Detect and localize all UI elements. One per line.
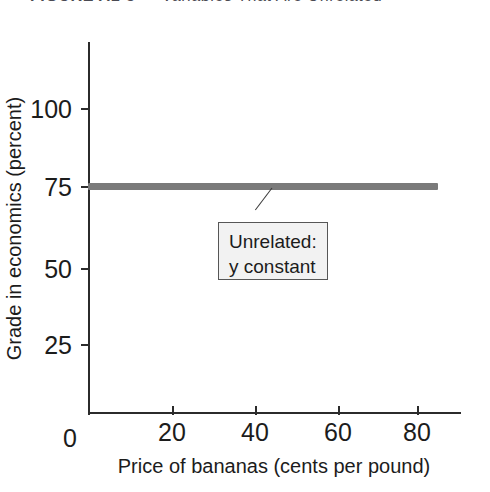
x-tick-label-20: 20 [158, 418, 186, 447]
y-tick-50: 50 [81, 268, 90, 270]
annotation-callout: Unrelated: y constant [218, 222, 328, 280]
y-tick-25: 25 [81, 344, 90, 346]
figure-caption-title: Variables That Are Unrelated [162, 0, 383, 4]
x-tick-40: 40 [255, 406, 257, 415]
x-axis-line [88, 412, 461, 414]
y-tick-label-100: 100 [30, 95, 72, 124]
y-tick-label-50: 50 [44, 255, 72, 284]
x-tick-20: 20 [172, 406, 174, 415]
x-tick-label-0: 0 [63, 424, 77, 453]
y-tick-label-25: 25 [44, 331, 72, 360]
y-axis-title: Grade in economics (percent) [0, 42, 28, 415]
y-axis-line [88, 42, 90, 415]
x-tick-label-60: 60 [324, 418, 352, 447]
annotation-line-1: Unrelated: [229, 229, 327, 254]
x-axis-title: Price of bananas (cents per pound) [88, 455, 460, 478]
x-tick-label-80: 80 [403, 418, 431, 447]
figure-caption-label: FIGURE A1-5 [30, 0, 136, 4]
y-tick-100: 100 [81, 108, 90, 110]
figure-container: FIGURE A1-5Variables That Are Unrelated … [0, 0, 490, 492]
y-tick-label-75: 75 [44, 173, 72, 202]
annotation-line-2: y constant [229, 254, 327, 279]
figure-caption: FIGURE A1-5Variables That Are Unrelated [0, 0, 490, 7]
x-tick-80: 80 [417, 406, 419, 415]
x-tick-60: 60 [338, 406, 340, 415]
x-tick-label-40: 40 [241, 418, 269, 447]
series-line-unrelated [88, 183, 438, 190]
